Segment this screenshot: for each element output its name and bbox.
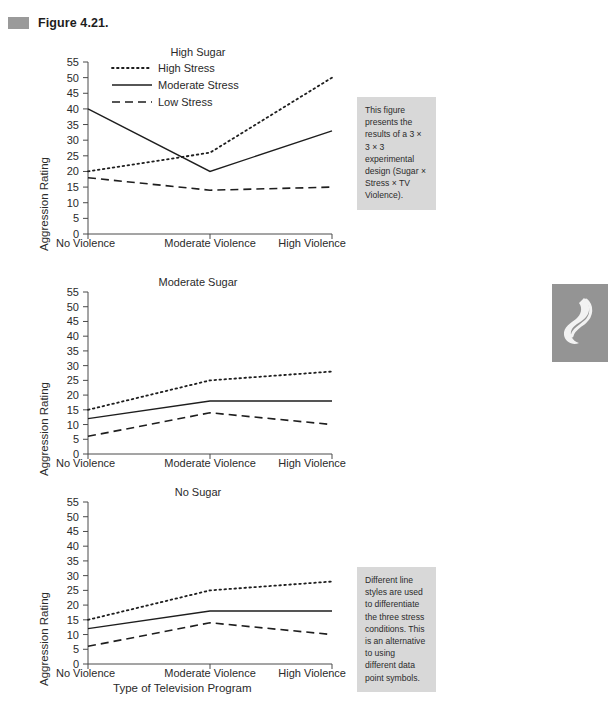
y-tick-label: 35 bbox=[67, 345, 79, 357]
series-line-dashed bbox=[88, 178, 332, 191]
x-category-label: High Violence bbox=[278, 667, 346, 679]
figure-page: Figure 4.21. High Sugar Aggression Ratin… bbox=[0, 0, 608, 708]
note-design: This figure presents the results of a 3 … bbox=[357, 97, 436, 210]
y-tick-label: 15 bbox=[67, 614, 79, 626]
y-tick-label: 55 bbox=[67, 56, 79, 68]
y-axis-label-2: Aggression Rating bbox=[38, 382, 50, 476]
y-tick-label: 20 bbox=[67, 165, 79, 177]
series-line-dotted bbox=[88, 582, 332, 620]
y-tick-label: 50 bbox=[67, 511, 79, 523]
legend-label: Moderate Stress bbox=[158, 79, 239, 91]
series-line-dashed bbox=[88, 623, 332, 647]
y-tick-label: 35 bbox=[67, 119, 79, 131]
series-group-1 bbox=[88, 78, 332, 191]
y-tick-label: 40 bbox=[67, 330, 79, 342]
legend-label: Low Stress bbox=[158, 96, 213, 108]
series-line-solid bbox=[88, 109, 332, 172]
series-line-dotted bbox=[88, 372, 332, 410]
note-linestyles: Different line styles are used to differ… bbox=[357, 567, 436, 692]
x-category-label: High Violence bbox=[278, 457, 346, 469]
y-tick-label: 25 bbox=[67, 374, 79, 386]
y-tick-label: 50 bbox=[67, 72, 79, 84]
legend-label: High Stress bbox=[158, 62, 215, 74]
y-tick-label: 20 bbox=[67, 389, 79, 401]
y-tick-label: 55 bbox=[67, 496, 79, 508]
series-group-3 bbox=[88, 582, 332, 647]
x-tick-labels-1: No ViolenceModerate ViolenceHigh Violenc… bbox=[50, 234, 350, 256]
y-tick-label: 45 bbox=[67, 87, 79, 99]
y-tick-label: 55 bbox=[67, 286, 79, 298]
y-tick-label: 40 bbox=[67, 103, 79, 115]
y-tick-label: 35 bbox=[67, 555, 79, 567]
y-axis-label-3: Aggression Rating bbox=[38, 592, 50, 686]
series-line-solid bbox=[88, 401, 332, 419]
figure-label: Figure 4.21. bbox=[38, 16, 109, 30]
y-tick-label: 40 bbox=[67, 540, 79, 552]
y-tick-label: 45 bbox=[67, 525, 79, 537]
y-tick-label: 30 bbox=[67, 360, 79, 372]
x-category-label: Moderate Violence bbox=[164, 237, 256, 249]
y-tick-label: 50 bbox=[67, 301, 79, 313]
y-tick-label: 30 bbox=[67, 570, 79, 582]
y-tick-label: 10 bbox=[67, 419, 79, 431]
y-tick-label: 45 bbox=[67, 315, 79, 327]
swirl-flourish-icon bbox=[552, 284, 608, 362]
figure-header: Figure 4.21. bbox=[8, 16, 109, 30]
y-tick-label: 5 bbox=[73, 212, 79, 224]
x-category-label: No Violence bbox=[56, 237, 115, 249]
y-tick-label: 15 bbox=[67, 404, 79, 416]
y-axis-3: 0510152025303540455055 bbox=[67, 496, 88, 670]
y-tick-label: 5 bbox=[73, 433, 79, 445]
y-tick-label: 10 bbox=[67, 197, 79, 209]
gray-square-marker-icon bbox=[8, 17, 29, 29]
x-category-label: No Violence bbox=[56, 457, 115, 469]
y-tick-label: 30 bbox=[67, 134, 79, 146]
y-tick-label: 25 bbox=[67, 584, 79, 596]
chart-legend: High StressModerate StressLow Stress bbox=[112, 62, 239, 108]
x-category-label: Moderate Violence bbox=[164, 457, 256, 469]
y-axis-2: 0510152025303540455055 bbox=[67, 286, 88, 460]
x-axis-label: Type of Television Program bbox=[113, 682, 252, 694]
series-line-dotted bbox=[88, 78, 332, 172]
x-category-label: High Violence bbox=[278, 237, 346, 249]
x-category-label: Moderate Violence bbox=[164, 667, 256, 679]
y-tick-label: 5 bbox=[73, 643, 79, 655]
series-line-solid bbox=[88, 611, 332, 629]
series-line-dashed bbox=[88, 413, 332, 437]
series-group-2 bbox=[88, 372, 332, 437]
y-tick-label: 20 bbox=[67, 599, 79, 611]
y-tick-label: 25 bbox=[67, 150, 79, 162]
y-axis-label-1: Aggression Rating bbox=[38, 157, 50, 251]
x-category-label: No Violence bbox=[56, 667, 115, 679]
x-tick-labels-2: No ViolenceModerate ViolenceHigh Violenc… bbox=[50, 454, 350, 476]
y-tick-label: 10 bbox=[67, 629, 79, 641]
y-tick-label: 15 bbox=[67, 181, 79, 193]
y-axis-1: 0510152025303540455055 bbox=[67, 56, 88, 240]
